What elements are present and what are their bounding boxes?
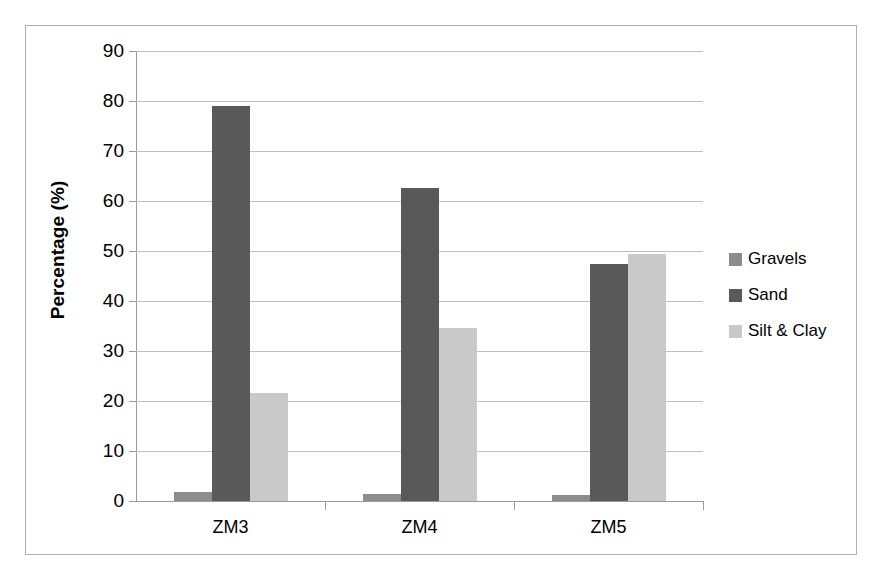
legend-swatch-icon <box>729 253 742 266</box>
bar-group <box>514 51 703 501</box>
bar-zm4-silt-clay <box>439 328 477 501</box>
legend-item-sand[interactable]: Sand <box>729 277 854 313</box>
y-tick-label: 80 <box>103 90 124 112</box>
legend-item-gravels[interactable]: Gravels <box>729 241 854 277</box>
x-tick-separator <box>325 501 326 510</box>
y-tick-mark <box>129 51 136 52</box>
bar-zm4-sand <box>401 188 439 501</box>
y-tick-mark <box>129 401 136 402</box>
x-tick-label-zm5: ZM5 <box>591 517 627 538</box>
legend-swatch-icon <box>729 289 742 302</box>
bar-zm3-sand <box>212 106 250 501</box>
y-tick-mark <box>129 151 136 152</box>
bar-zm4-gravels <box>363 494 401 502</box>
y-tick-mark <box>129 451 136 452</box>
bar-zm5-silt-clay <box>628 254 666 502</box>
x-tick-label-zm4: ZM4 <box>402 517 438 538</box>
y-tick-mark <box>129 301 136 302</box>
y-tick-label: 10 <box>103 440 124 462</box>
y-tick-mark <box>129 501 136 502</box>
bar-zm3-silt-clay <box>250 393 288 502</box>
y-tick-label: 40 <box>103 290 124 312</box>
y-tick-label: 70 <box>103 140 124 162</box>
chart-legend: GravelsSandSilt & Clay <box>729 241 854 349</box>
plot-area: 0102030405060708090 ZM3ZM4ZM5 <box>136 51 703 501</box>
bar-zm5-gravels <box>552 495 590 502</box>
y-tick-label: 50 <box>103 240 124 262</box>
legend-item-silt-clay[interactable]: Silt & Clay <box>729 313 854 349</box>
y-tick-mark <box>129 201 136 202</box>
y-tick-label: 60 <box>103 190 124 212</box>
x-tick-label-zm3: ZM3 <box>213 517 249 538</box>
legend-label: Sand <box>748 285 788 305</box>
bar-group <box>136 51 325 501</box>
x-tick-separator <box>703 501 704 510</box>
x-axis-line <box>136 501 703 502</box>
legend-label: Gravels <box>748 249 807 269</box>
bar-group <box>325 51 514 501</box>
y-tick-mark <box>129 251 136 252</box>
y-tick-label: 20 <box>103 390 124 412</box>
chart-figure: Percentage (%) 0102030405060708090 ZM3ZM… <box>25 25 857 555</box>
y-tick-mark <box>129 351 136 352</box>
bar-zm5-sand <box>590 264 628 502</box>
y-tick-label: 90 <box>103 40 124 62</box>
y-tick-mark <box>129 101 136 102</box>
y-axis-title: Percentage (%) <box>47 50 69 450</box>
y-tick-label: 0 <box>113 490 124 512</box>
y-tick-label: 30 <box>103 340 124 362</box>
x-tick-separator <box>514 501 515 510</box>
legend-swatch-icon <box>729 325 742 338</box>
bar-zm3-gravels <box>174 492 212 501</box>
legend-label: Silt & Clay <box>748 321 826 341</box>
